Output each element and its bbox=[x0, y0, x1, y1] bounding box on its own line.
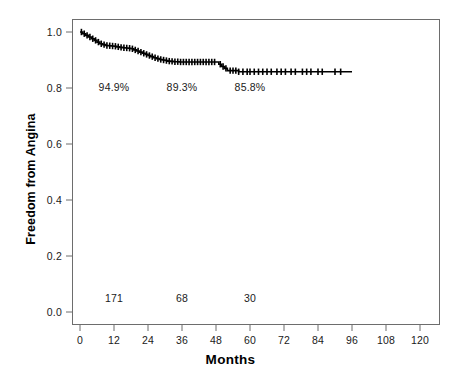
y-tick-label: 0.0 bbox=[30, 306, 62, 318]
y-tick-label: 0.2 bbox=[30, 250, 62, 262]
x-tick-label: 60 bbox=[244, 334, 256, 346]
x-tick-label: 108 bbox=[377, 334, 395, 346]
number-at-risk-annotation: 171 bbox=[105, 292, 123, 304]
plot-frame bbox=[72, 19, 440, 325]
survival-percent-annotation: 94.9% bbox=[99, 81, 130, 93]
kaplan-meier-figure: Freedom from Angina Months 0122436486072… bbox=[0, 0, 461, 384]
number-at-risk-annotation: 68 bbox=[176, 292, 188, 304]
y-tick-label: 0.4 bbox=[30, 194, 62, 206]
y-tick-label: 0.6 bbox=[30, 138, 62, 150]
x-tick-label: 72 bbox=[278, 334, 290, 346]
x-tick-label: 12 bbox=[108, 334, 120, 346]
x-tick-label: 24 bbox=[142, 334, 154, 346]
x-tick-label: 120 bbox=[411, 334, 429, 346]
survival-percent-annotation: 89.3% bbox=[167, 81, 198, 93]
y-tick-label: 0.8 bbox=[30, 82, 62, 94]
x-tick-label: 84 bbox=[312, 334, 324, 346]
survival-percent-annotation: 85.8% bbox=[235, 81, 266, 93]
y-tick-label: 1.0 bbox=[30, 26, 62, 38]
y-axis-title: Freedom from Angina bbox=[24, 79, 38, 279]
x-tick-label: 0 bbox=[77, 334, 83, 346]
x-tick-label: 96 bbox=[346, 334, 358, 346]
x-axis-title: Months bbox=[0, 352, 461, 367]
x-tick-label: 48 bbox=[210, 334, 222, 346]
x-tick-label: 36 bbox=[176, 334, 188, 346]
number-at-risk-annotation: 30 bbox=[244, 292, 256, 304]
